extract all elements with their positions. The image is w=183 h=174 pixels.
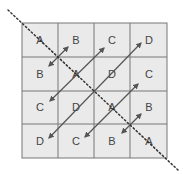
latin-square-diagram: A B C D B A D C C D A B D C B A <box>0 0 183 174</box>
cell-r1c4: D <box>145 34 153 46</box>
cell-r1c3: C <box>108 34 116 46</box>
cell-r3c1: C <box>36 101 44 113</box>
cell-r2c4: C <box>145 68 153 80</box>
cell-r4c1: D <box>36 135 44 147</box>
cell-r2c1: B <box>36 68 43 80</box>
cell-r4c2: C <box>72 135 80 147</box>
cell-r4c3: B <box>108 135 115 147</box>
cell-r3c4: B <box>145 101 152 113</box>
cell-r1c2: B <box>72 34 79 46</box>
